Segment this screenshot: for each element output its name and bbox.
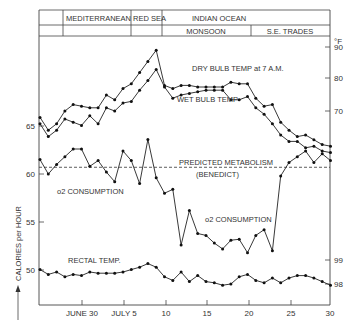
data-point [329,159,332,162]
x-tick-july5: JULY 5 [111,309,137,318]
data-point [163,275,166,278]
data-point [97,272,100,275]
data-point [254,234,257,237]
data-point [63,110,66,113]
data-point [271,249,274,252]
data-point [72,148,75,151]
data-point [88,165,91,168]
arrow-up-icon [16,285,21,292]
right-tick-99: 99 [334,256,343,265]
right-tick-70: 70 [334,107,343,116]
data-point [246,273,249,276]
data-point [88,271,91,274]
data-point [146,60,149,63]
data-point [130,100,133,103]
data-point [246,95,249,98]
data-point [288,140,291,143]
region-red-sea: RED SEA [133,14,166,23]
data-point [171,279,174,282]
data-point [296,155,299,158]
data-point [80,274,83,277]
data-point [288,129,291,132]
data-point [39,116,42,119]
data-point [213,281,216,284]
data-point [105,106,108,109]
left-tick-65: 65 [26,122,35,131]
annotation-benedict: (BENEDICT) [196,170,239,179]
data-point [196,86,199,89]
data-point [196,90,199,93]
data-point [296,135,299,138]
data-point [254,106,257,109]
data-point [296,140,299,143]
data-point [279,174,282,177]
right-tick-90: 90 [334,43,343,52]
data-point [271,277,274,280]
data-point [47,135,50,138]
data-point [238,82,241,85]
x-axis: JUNE 30 JULY 5 10 15 20 25 30 [66,300,335,318]
left-axis-label: CALORIES per HOUR [14,205,23,281]
data-point [97,106,100,109]
data-point [196,274,199,277]
data-point [312,145,315,148]
data-point [263,281,266,284]
data-point [130,82,133,85]
data-point [155,176,158,179]
data-point [55,271,58,274]
left-tick-50: 50 [26,266,35,275]
data-point [312,277,315,280]
data-point [39,268,42,271]
data-point [329,284,332,287]
data-point [88,114,91,117]
data-point [171,188,174,191]
data-point [155,266,158,269]
data-point [163,192,166,195]
data-point [205,280,208,283]
data-point [246,251,249,254]
data-point [72,121,75,124]
data-point [63,118,66,121]
left-tick-60: 60 [26,170,35,179]
x-tick-25: 25 [287,309,296,318]
data-point [180,244,183,247]
data-point [296,274,299,277]
data-point [171,87,174,90]
data-point [196,232,199,235]
data-point [88,106,91,109]
data-point [304,134,307,137]
x-tick-10: 10 [162,309,171,318]
data-point [288,277,291,280]
data-point [130,159,133,162]
data-point [180,271,183,274]
data-point [229,239,232,242]
data-point [47,273,50,276]
data-point [304,149,307,152]
data-point [105,272,108,275]
data-point [321,280,324,283]
data-point [163,86,166,89]
data-point [39,158,42,161]
data-point [205,86,208,89]
data-point [321,152,324,155]
data-point [188,209,191,212]
data-point [80,105,83,108]
data-point [329,145,332,148]
annotation-predicted: PREDICTED METABOLISM [179,158,273,167]
left-axis: 65 60 55 50 CALORIES per HOUR [14,122,44,320]
data-point [138,89,141,92]
data-point [188,280,191,283]
data-point [279,121,282,124]
data-point [213,86,216,89]
chart: MEDITERRANEAN RED SEA INDIAN OCEAN MONSO… [0,0,355,330]
data-point [47,129,50,132]
left-tick-55: 55 [26,218,35,227]
data-point [72,103,75,106]
data-point [80,124,83,127]
data-point [55,129,58,132]
data-point [97,159,100,162]
data-point [238,238,241,241]
data-point [130,268,133,271]
data-point [263,228,266,231]
annotation-o2-left: o2 CONSUMPTION [57,187,124,196]
